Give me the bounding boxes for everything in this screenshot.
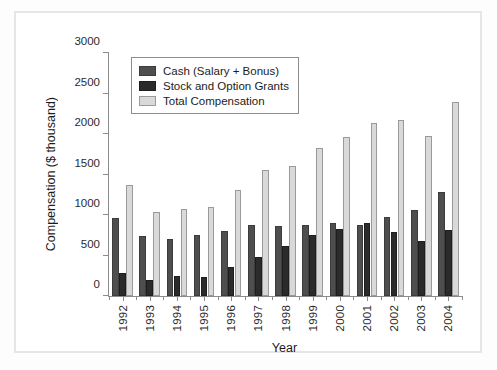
legend-item-stock: Stock and Option Grants — [139, 78, 289, 93]
bar — [398, 120, 405, 296]
x-axis-title: Year — [108, 341, 461, 355]
x-axis-tick-label-1992: 1992 — [117, 305, 129, 331]
x-axis-minor-tick — [218, 296, 219, 300]
bar — [289, 166, 296, 296]
x-axis-tick-label-1993: 1993 — [144, 305, 156, 331]
bar — [167, 239, 174, 297]
x-axis-tick — [177, 296, 178, 301]
x-axis-tick — [231, 296, 232, 301]
y-axis-tick — [103, 214, 109, 215]
x-axis-tick — [448, 296, 449, 301]
bar — [316, 148, 323, 296]
x-axis-minor-tick — [326, 296, 327, 300]
legend-label: Cash (Salary + Bonus) — [163, 65, 279, 77]
x-axis-tick — [150, 296, 151, 301]
x-axis-tick-label-2004: 2004 — [442, 305, 454, 331]
bar — [194, 235, 201, 296]
bar-group-1999 — [302, 53, 323, 296]
y-axis-title: Compensation ($ thousand) — [44, 97, 58, 251]
x-axis-tick-label-2000: 2000 — [334, 305, 346, 331]
x-axis-tick — [313, 296, 314, 301]
x-axis-minor-tick — [381, 296, 382, 300]
bar — [139, 236, 146, 296]
x-axis-tick-label-2003: 2003 — [415, 305, 427, 331]
y-axis-tick — [103, 93, 109, 94]
x-axis-minor-tick — [299, 296, 300, 300]
chart-legend: Cash (Salary + Bonus)Stock and Option Gr… — [131, 57, 299, 114]
bar — [126, 185, 133, 296]
bar — [228, 267, 235, 296]
y-axis-tick — [103, 174, 109, 175]
bar — [282, 246, 289, 296]
bar — [255, 257, 262, 296]
x-axis-tick-label-1997: 1997 — [252, 305, 264, 331]
bar — [309, 235, 316, 296]
y-axis-tick-label: 2500 — [74, 76, 100, 88]
bar-group-2003 — [411, 53, 432, 296]
bar — [452, 102, 459, 296]
bar — [411, 210, 418, 296]
bar — [371, 123, 378, 296]
x-axis-tick — [340, 296, 341, 301]
bar — [336, 229, 343, 296]
x-axis-tick-label-2001: 2001 — [361, 305, 373, 331]
bar — [302, 225, 309, 296]
chart-page: Compensation ($ thousand) 05001000150020… — [0, 0, 497, 370]
bar — [275, 226, 282, 296]
x-axis-minor-tick — [163, 296, 164, 300]
y-axis-title-wrap: Compensation ($ thousand) — [44, 53, 58, 296]
bar — [248, 225, 255, 296]
legend-item-total: Total Compensation — [139, 93, 289, 108]
x-axis-tick-label-1999: 1999 — [307, 305, 319, 331]
x-axis-tick-label-1998: 1998 — [280, 305, 292, 331]
y-axis-tick — [103, 255, 109, 256]
bar — [112, 218, 119, 296]
bar — [384, 217, 391, 296]
x-axis-minor-tick — [109, 296, 110, 300]
legend-item-cash: Cash (Salary + Bonus) — [139, 63, 289, 78]
x-axis-tick — [367, 296, 368, 301]
x-axis-tick-label-1995: 1995 — [198, 305, 210, 331]
bar — [181, 209, 188, 296]
x-axis-minor-tick — [353, 296, 354, 300]
x-axis-tick — [204, 296, 205, 301]
bar — [262, 170, 269, 296]
bar — [425, 136, 432, 296]
x-axis-tick — [394, 296, 395, 301]
bar-group-2000 — [330, 53, 351, 296]
bar — [119, 273, 126, 296]
x-axis-minor-tick — [136, 296, 137, 300]
y-axis-tick — [103, 133, 109, 134]
bar-group-2002 — [384, 53, 405, 296]
legend-label: Total Compensation — [163, 95, 265, 107]
x-axis-minor-tick — [190, 296, 191, 300]
bar — [445, 230, 452, 296]
bar — [153, 212, 160, 296]
bar — [235, 190, 242, 296]
y-axis-tick-label: 0 — [94, 278, 100, 290]
y-axis-tick-label: 2000 — [74, 116, 100, 128]
bar — [343, 137, 350, 296]
bar — [221, 231, 228, 296]
x-axis-minor-tick — [408, 296, 409, 300]
figure-frame: Compensation ($ thousand) 05001000150020… — [14, 11, 482, 353]
bar-group-1992 — [112, 53, 133, 296]
x-axis-minor-tick — [462, 296, 463, 300]
bar — [357, 225, 364, 296]
legend-swatch-cash — [139, 66, 156, 76]
legend-swatch-stock — [139, 81, 156, 91]
bar-group-2004 — [438, 53, 459, 296]
bar — [391, 232, 398, 296]
y-axis-tick-label: 1000 — [74, 197, 100, 209]
x-axis-minor-tick — [245, 296, 246, 300]
bar — [418, 241, 425, 296]
x-axis-minor-tick — [435, 296, 436, 300]
x-axis-tick — [421, 296, 422, 301]
y-axis-tick-label: 1500 — [74, 157, 100, 169]
y-axis-tick-label: 500 — [81, 238, 100, 250]
bar — [364, 223, 371, 296]
y-axis-tick-label: 3000 — [74, 35, 100, 47]
bar — [208, 207, 215, 296]
x-axis-tick-label-2002: 2002 — [388, 305, 400, 331]
bar-group-2001 — [357, 53, 378, 296]
